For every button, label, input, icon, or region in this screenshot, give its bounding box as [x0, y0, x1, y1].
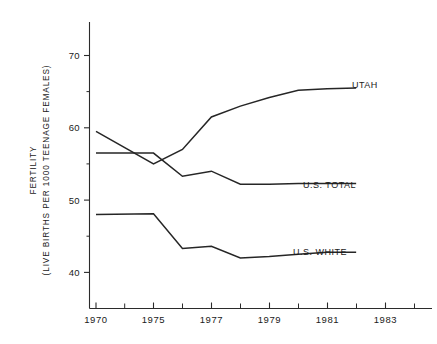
- y-tick-label-70: 70: [69, 50, 80, 61]
- chart-background: [0, 0, 437, 344]
- series-label-utah: UTAH: [352, 80, 378, 90]
- x-tick-label-1970: 1970: [84, 314, 108, 325]
- x-tick-label-1983: 1983: [374, 314, 398, 325]
- y-tick-label-50: 50: [69, 195, 80, 206]
- x-tick-label-1981: 1981: [316, 314, 340, 325]
- series-label-us-total: U.S. TOTAL: [303, 180, 356, 190]
- fertility-line-chart: 70 60 50 40 FERTILITY (LIVE BIRTHS PER 1…: [0, 0, 437, 344]
- y-tick-label-40: 40: [69, 267, 80, 278]
- series-label-us-white: U.S. WHITE: [293, 247, 347, 257]
- y-axis-title-secondary: (LIVE BIRTHS PER 1000 TEENAGE FEMALES): [42, 65, 51, 276]
- x-tick-label-1977: 1977: [200, 314, 224, 325]
- y-tick-label-60: 60: [69, 122, 80, 133]
- x-tick-label-1975: 1975: [142, 314, 166, 325]
- y-axis-title-primary: FERTILITY: [29, 146, 38, 195]
- x-tick-label-1979: 1979: [258, 314, 282, 325]
